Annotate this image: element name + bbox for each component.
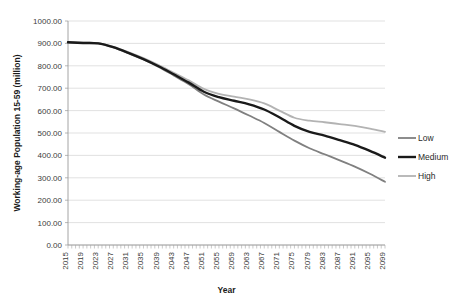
line-chart: 1000.00900.00800.00700.00600.00500.00400…	[0, 0, 471, 300]
y-tick-label: 100.00	[38, 219, 63, 228]
y-tick-label: 200.00	[38, 196, 63, 205]
y-tick-label: 900.00	[38, 39, 63, 48]
x-tick-label: 2063	[242, 251, 251, 269]
chart-container: 1000.00900.00800.00700.00600.00500.00400…	[0, 0, 471, 300]
x-tick-label: 2095	[363, 251, 372, 269]
series-line-low	[68, 42, 385, 182]
y-tick-label: 0.00	[46, 241, 62, 250]
series-line-medium	[68, 42, 385, 157]
y-tick-label: 1000.00	[33, 17, 62, 26]
legend-label-low: Low	[418, 133, 434, 143]
x-tick-label: 2035	[136, 251, 145, 269]
series-line-high	[68, 42, 385, 132]
x-tick-label: 2039	[152, 251, 161, 269]
y-tick-label: 500.00	[38, 129, 63, 138]
x-tick-label: 2071	[272, 251, 281, 269]
x-tick-label: 2047	[182, 251, 191, 269]
legend-label-high: High	[418, 171, 436, 181]
x-tick-label: 2099	[378, 251, 387, 269]
x-tick-label: 2087	[333, 251, 342, 269]
x-tick-label: 2067	[257, 251, 266, 269]
x-tick-label: 2043	[167, 251, 176, 269]
x-tick-label: 2027	[106, 251, 115, 269]
y-tick-label: 700.00	[38, 84, 63, 93]
y-tick-label: 800.00	[38, 62, 63, 71]
x-tick-label: 2015	[61, 251, 70, 269]
x-tick-label: 2019	[76, 251, 85, 269]
x-tick-label: 2051	[197, 251, 206, 269]
x-tick-label: 2091	[348, 251, 357, 269]
x-tick-label: 2083	[318, 251, 327, 269]
legend-label-medium: Medium	[418, 152, 448, 162]
x-tick-label: 2079	[303, 251, 312, 269]
y-tick-label: 400.00	[38, 151, 63, 160]
y-tick-label: 300.00	[38, 174, 63, 183]
x-tick-label: 2031	[121, 251, 130, 269]
y-tick-label: 600.00	[38, 107, 63, 116]
x-tick-label: 2023	[91, 251, 100, 269]
x-tick-label: 2059	[227, 251, 236, 269]
x-tick-label: 2055	[212, 251, 221, 269]
x-tick-label: 2075	[287, 251, 296, 269]
y-axis-title: Working-age Population 15-59 (million)	[12, 54, 22, 211]
x-axis-title: Year	[218, 285, 237, 295]
